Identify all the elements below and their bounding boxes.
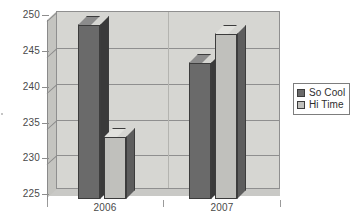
y-tick-dash-250 [42,15,49,16]
legend-item-so-cool: So Cool [297,87,345,99]
y-tick-dash-235 [42,123,49,124]
category-separator [168,12,169,188]
chart-legend: So Cool Hi Time [293,83,350,115]
legend-label-hi-time: Hi Time [309,99,344,111]
bar-front-face [189,63,211,199]
y-axis-label-240: 240 [14,81,40,92]
y-tick-dash-245 [42,51,49,52]
left-wall-outer-edge [47,20,48,200]
bar-side-face [237,25,246,199]
y-tick-dash-225 [42,194,49,195]
bar-front-face [215,34,237,199]
y-axis-label-230: 230 [14,152,40,163]
scan-artifact [1,113,3,115]
bar-front-face [104,137,126,199]
legend-swatch-icon [297,101,305,109]
bar-so-cool-2007 [189,63,211,199]
legend-item-hi-time: Hi Time [297,99,345,111]
bar-so-cool-2006 [78,25,100,199]
bar-chart: 250 245 240 235 230 225 2006 2007 [0,0,355,224]
bar-hi-time-2007 [215,34,237,199]
x-axis-label-2006: 2006 [75,202,135,213]
y-axis-label-245: 245 [14,45,40,56]
x-axis-label-2007: 2007 [192,202,252,213]
x-tick-mark-left [47,200,48,207]
legend-label-so-cool: So Cool [309,87,345,99]
bar-side-face [126,128,135,199]
x-tick-mark-right [280,200,281,207]
legend-swatch-icon [297,89,305,97]
y-tick-dash-240 [42,87,49,88]
y-axis-label-235: 235 [14,117,40,128]
y-axis-label-250: 250 [14,9,40,20]
bar-front-face [78,25,100,199]
y-axis-label-225: 225 [14,188,40,199]
x-tick-mark-middle [163,200,164,207]
y-tick-dash-230 [42,158,49,159]
bar-hi-time-2006 [104,137,126,199]
